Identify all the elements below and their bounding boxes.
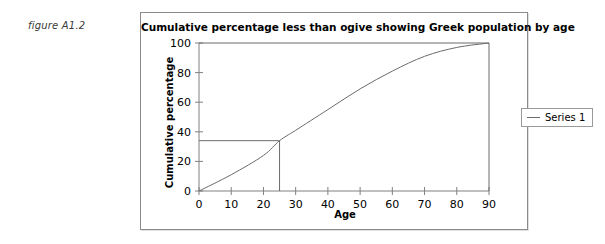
chart-legend[interactable]: Series 1	[521, 108, 593, 127]
y-tick-label-0: 0	[184, 185, 191, 198]
x-axis-tick-labels: 0102030405060708090	[196, 198, 497, 211]
x-tick-label-40: 40	[321, 198, 335, 211]
x-tick-label-10: 10	[224, 198, 238, 211]
x-tick-label-50: 50	[353, 198, 367, 211]
chart-panel: Cumulative percentage less than ogive sh…	[140, 12, 528, 230]
figure-caption: figure A1.2	[28, 20, 85, 31]
x-tick-label-0: 0	[196, 198, 203, 211]
legend-line-swatch-icon	[527, 117, 540, 118]
x-tick-label-70: 70	[418, 198, 432, 211]
x-tick-label-90: 90	[482, 198, 496, 211]
y-axis-tick-labels: 020406080100	[170, 37, 191, 198]
x-tick-label-60: 60	[385, 198, 399, 211]
series-line-series-1	[199, 43, 489, 191]
y-tick-label-80: 80	[177, 67, 191, 80]
x-tick-label-80: 80	[450, 198, 464, 211]
y-tick-label-40: 40	[177, 126, 191, 139]
legend-label-series-1: Series 1	[545, 112, 585, 123]
y-tick-label-60: 60	[177, 96, 191, 109]
x-tick-label-30: 30	[289, 198, 303, 211]
y-tick-label-20: 20	[177, 155, 191, 168]
x-tick-label-20: 20	[256, 198, 270, 211]
y-tick-label-100: 100	[170, 37, 191, 50]
plot-area: 020406080100 0102030405060708090	[141, 13, 529, 231]
